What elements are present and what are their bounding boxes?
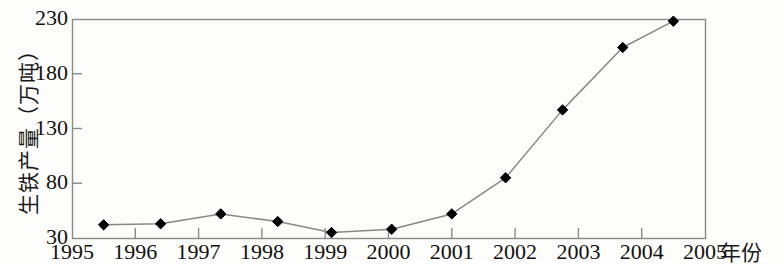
x-tick-label: 2005 <box>673 240 737 264</box>
data-point-marker <box>216 209 226 219</box>
series-markers <box>98 16 678 238</box>
x-tick-label: 2003 <box>546 240 610 264</box>
y-axis-ticks <box>72 74 82 184</box>
x-tick-label: 1995 <box>40 240 104 264</box>
x-tick-label: 1998 <box>230 240 294 264</box>
x-tick-label: 1996 <box>103 240 167 264</box>
plot-border <box>73 20 706 239</box>
data-point-marker <box>668 16 678 26</box>
x-axis-tick-labels: 年份 1995199619971998199920002001200220032… <box>0 238 784 264</box>
data-line <box>104 21 674 232</box>
data-point-marker <box>447 209 457 219</box>
data-point-marker <box>273 216 283 226</box>
x-tick-label: 1999 <box>293 240 357 264</box>
data-point-marker <box>98 220 108 230</box>
data-point-marker <box>155 219 165 229</box>
series-line <box>104 21 674 232</box>
x-tick-label: 2001 <box>420 240 484 264</box>
x-tick-label: 2004 <box>610 240 674 264</box>
x-tick-label: 1997 <box>167 240 231 264</box>
x-tick-label: 2000 <box>357 240 421 264</box>
data-point-marker <box>326 227 336 237</box>
plot-frame <box>73 20 706 239</box>
x-tick-label: 2002 <box>483 240 547 264</box>
